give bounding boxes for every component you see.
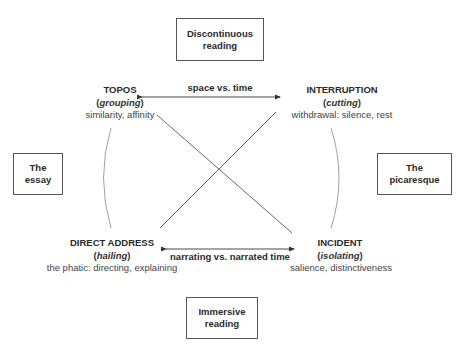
axis-label-narrating-vs-narrated-time: narrating vs. narrated time bbox=[168, 251, 292, 262]
node-direct-address-title: DIRECT ADDRESS bbox=[44, 237, 180, 250]
box-immersive-reading: Immersive reading bbox=[186, 297, 258, 339]
node-incident-title: INCIDENT bbox=[290, 237, 390, 250]
axis-label-space-vs-time: space vs. time bbox=[180, 82, 260, 93]
node-topos-description: similarity, affinity bbox=[70, 109, 170, 122]
node-interruption-description: withdrawal: silence, rest bbox=[282, 109, 402, 122]
node-topos-subtitle: (grouping) bbox=[70, 97, 170, 110]
box-the-essay: The essay bbox=[13, 153, 63, 195]
node-direct-address-description: the phatic: directing, explaining bbox=[44, 262, 180, 275]
node-direct-address-subtitle: (hailing) bbox=[44, 250, 180, 263]
node-incident-description: salience, distinctiveness bbox=[290, 262, 390, 275]
node-topos: TOPOS (grouping) similarity, affinity bbox=[70, 84, 170, 122]
box-discontinuous-reading: Discontinuous reading bbox=[176, 18, 264, 61]
box-immersive-reading-line1: Immersive bbox=[198, 306, 245, 318]
node-interruption-subtitle: (cutting) bbox=[282, 97, 402, 110]
node-incident-subtitle-text: isolating bbox=[320, 250, 359, 261]
box-the-picaresque-line1: The bbox=[389, 162, 439, 174]
box-discontinuous-reading-line2: reading bbox=[187, 40, 253, 52]
box-immersive-reading-line2: reading bbox=[198, 318, 245, 330]
node-interruption: INTERRUPTION (cutting) withdrawal: silen… bbox=[282, 84, 402, 122]
left-arc bbox=[104, 128, 112, 228]
node-incident: INCIDENT (isolating) salience, distincti… bbox=[290, 237, 390, 275]
box-the-picaresque-line2: picaresque bbox=[389, 174, 439, 186]
diagonal-topos-incident bbox=[157, 115, 292, 233]
box-the-picaresque: The picaresque bbox=[377, 153, 452, 195]
node-incident-subtitle: (isolating) bbox=[290, 250, 390, 263]
node-direct-address-subtitle-text: hailing bbox=[97, 250, 128, 261]
node-topos-subtitle-text: grouping bbox=[99, 97, 140, 108]
node-interruption-subtitle-text: cutting bbox=[326, 97, 358, 108]
box-the-essay-line2: essay bbox=[25, 174, 51, 186]
box-the-essay-line1: The bbox=[25, 162, 51, 174]
node-interruption-title: INTERRUPTION bbox=[282, 84, 402, 97]
box-discontinuous-reading-line1: Discontinuous bbox=[187, 28, 253, 40]
node-direct-address: DIRECT ADDRESS (hailing) the phatic: dir… bbox=[44, 237, 180, 275]
node-topos-title: TOPOS bbox=[70, 84, 170, 97]
right-arc bbox=[331, 128, 339, 228]
diagonal-interruption-direct-address bbox=[160, 112, 276, 228]
